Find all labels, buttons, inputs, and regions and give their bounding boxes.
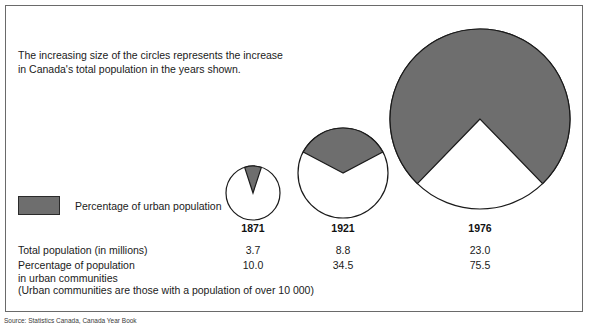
row-label-percentage-urban-line1: Percentage of population: [18, 259, 135, 273]
source-line: Source: Statistics Canada, Canada Year B…: [4, 317, 137, 324]
legend-swatch-urban-population: [18, 196, 60, 215]
caption-line-2: in Canada's total population in the year…: [18, 62, 318, 76]
legend: Percentage of urban population: [18, 196, 222, 215]
cell-total-population-1976: 23.0: [470, 244, 490, 258]
cell-total-population-1921: 8.8: [336, 244, 351, 258]
legend-label-urban-population: Percentage of urban population: [75, 200, 222, 212]
cell-percentage-urban-1976: 75.5: [470, 259, 490, 273]
table-footnote: (Urban communities are those with a popu…: [18, 284, 314, 298]
cell-percentage-urban-1871: 10.0: [243, 259, 263, 273]
year-label-1871: 1871: [241, 222, 264, 234]
table-row-total-population: Total population (in millions) 3.78.823.…: [18, 244, 563, 258]
year-label-1921: 1921: [331, 222, 354, 234]
row-label-total-population: Total population (in millions): [18, 244, 148, 258]
table-row-percentage-urban: Percentage of population 10.034.575.5: [18, 259, 563, 273]
cell-percentage-urban-1921: 34.5: [333, 259, 353, 273]
caption-line-1: The increasing size of the circles repre…: [18, 48, 318, 62]
cell-total-population-1871: 3.7: [246, 244, 261, 258]
year-label-1976: 1976: [468, 222, 491, 234]
figure-caption: The increasing size of the circles repre…: [18, 48, 318, 76]
